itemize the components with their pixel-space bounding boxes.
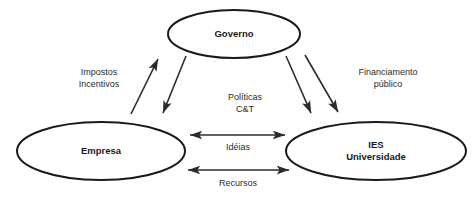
edge-label-financiamento-publico-line: público [374, 79, 403, 89]
node-label-governo: Governo [214, 28, 253, 39]
edge-politicas-ct-ies [286, 56, 311, 113]
edge-impostos-incentivos [131, 59, 158, 114]
edge-label-financiamento-publico-line: Financiamento [358, 67, 417, 77]
edge-label-ideias: Idéias [226, 142, 251, 152]
edge-politicas-ct-empresa [163, 56, 186, 113]
edge-label-recursos-line: Recursos [219, 178, 258, 188]
edge-label-recursos: Recursos [219, 178, 258, 188]
node-label-ies-line: Universidade [346, 151, 406, 162]
edge-label-ideias-line: Idéias [226, 142, 251, 152]
node-label-empresa: Empresa [81, 145, 122, 156]
node-label-governo-line: Governo [214, 28, 253, 39]
edge-label-politicas-ct-ies: PolíticasC&T [228, 92, 263, 114]
edge-financiamento-publico [305, 55, 338, 112]
edge-label-impostos-incentivos-line: Impostos [81, 67, 118, 77]
relationship-diagram: GovernoEmpresaIESUniversidade ImpostosIn… [0, 0, 476, 199]
edge-label-politicas-ct-ies-line: Políticas [228, 92, 263, 102]
edge-label-impostos-incentivos: ImpostosIncentivos [79, 67, 120, 89]
diagram-canvas: GovernoEmpresaIESUniversidade ImpostosIn… [0, 0, 476, 199]
edge-label-financiamento-publico: Financiamentopúblico [358, 67, 417, 89]
edge-label-politicas-ct-ies-line: C&T [236, 104, 255, 114]
node-label-empresa-line: Empresa [81, 145, 122, 156]
node-label-ies-line: IES [368, 139, 383, 150]
edge-label-impostos-incentivos-line: Incentivos [79, 79, 120, 89]
